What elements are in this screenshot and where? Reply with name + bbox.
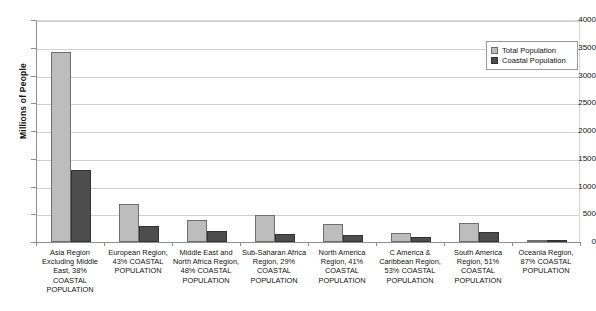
y-axis-title: Millions of People [18,31,28,171]
bar-coastal-population [479,232,499,242]
x-axis-tick-mark [36,242,37,246]
gridline [37,188,579,189]
bar-total-population [323,224,343,242]
x-axis-tick-mark [172,242,173,246]
chart-legend: Total Population Coastal Population [486,41,578,70]
x-axis-tick-mark [376,242,377,246]
x-axis-category-label: Sub-Saharan Africa Region, 29% COASTAL P… [240,248,308,285]
y-axis-tick-label: 2000 [564,127,596,135]
y-axis-tick-mark [31,20,36,21]
bar-coastal-population [139,226,159,242]
gridline [37,104,579,105]
y-axis-tick-label: 1500 [564,155,596,163]
x-axis-tick-mark [104,242,105,246]
x-axis-tick-mark [240,242,241,246]
x-axis-category-label: North America Region, 41% COASTAL POPULA… [308,248,376,285]
legend-item-coastal-population: Coastal Population [491,56,573,65]
y-axis-tick-label: 500 [564,210,596,218]
bar-total-population [119,204,139,242]
x-axis-category-label: Middle East and North Africa Region, 48%… [172,248,240,285]
x-axis-tick-mark [444,242,445,246]
bar-coastal-population [275,234,295,242]
bar-total-population [187,220,207,242]
y-axis-tick-mark [31,103,36,104]
gridline [37,132,579,133]
x-axis-tick-mark [580,242,581,246]
bar-total-population [459,223,479,242]
bar-total-population [255,215,275,242]
x-axis-category-label: C America & Caribbean Region, 53% COASTA… [376,248,444,285]
legend-label-total-population: Total Population [502,46,556,55]
bar-total-population [391,233,411,242]
legend-swatch-total-population [491,47,498,54]
x-axis-tick-mark [512,242,513,246]
bar-total-population [51,52,71,242]
bar-coastal-population [343,235,363,242]
legend-label-coastal-population: Coastal Population [502,56,566,65]
y-axis-tick-mark [31,131,36,132]
y-axis-tick-mark [31,48,36,49]
y-axis-tick-label: 2500 [564,99,596,107]
gridline [37,77,579,78]
y-axis-tick-mark [31,187,36,188]
y-axis-tick-mark [31,76,36,77]
bar-coastal-population [71,170,91,242]
x-axis-category-label: Oceania Region, 87% COASTAL POPULATION [512,248,580,276]
y-axis-tick-mark [31,159,36,160]
y-axis-tick-mark [31,214,36,215]
y-axis-tick-label: 1000 [564,183,596,191]
x-axis-tick-mark [308,242,309,246]
x-axis-category-label: South America Region, 51% COASTAL POPULA… [444,248,512,285]
x-axis-category-label: Asia Region Excluding Middle East, 38% C… [36,248,104,294]
bar-chart: Millions of People 050010001500200025003… [0,0,596,311]
y-axis-tick-label: 3000 [564,72,596,80]
y-axis-tick-label: 4000 [564,16,596,24]
bar-coastal-population [207,231,227,242]
legend-item-total-population: Total Population [491,46,573,55]
gridline [37,21,579,22]
gridline [37,160,579,161]
legend-swatch-coastal-population [491,57,498,64]
x-axis-category-label: European Region, 43% COASTAL POPULATION [104,248,172,276]
